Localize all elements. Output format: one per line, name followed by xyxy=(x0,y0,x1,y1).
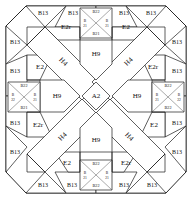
star-west-top-label: B22 xyxy=(21,83,28,88)
house-west-label: H9 xyxy=(53,92,62,100)
par-top-left-label: E2r xyxy=(61,23,72,31)
quilt-block-diagram: B13 B13 B13 B13 E2r E2 B13 B13 B13 B13 B… xyxy=(0,0,192,199)
tri-left-3-label: B13 xyxy=(10,120,20,126)
par-left-lower-label: E2r xyxy=(33,121,44,129)
tri-right-2-label: B13 xyxy=(172,68,182,74)
star-north-left-lower-label: 21 xyxy=(83,24,87,28)
tri-right-3-label: B13 xyxy=(172,120,182,126)
tri-top-2-label: B13 xyxy=(68,10,78,16)
tri-bottom-1-label: B13 xyxy=(38,182,48,188)
tri-top-4-label: B13 xyxy=(146,10,156,16)
star-west-left-lower-label: 22 xyxy=(11,98,15,102)
star-west-bottom-label: B21 xyxy=(21,105,28,110)
tri-bottom-2-label: B13 xyxy=(67,182,77,188)
house-north-label: H9 xyxy=(92,50,101,58)
star-south-left-lower-label: 21 xyxy=(83,176,87,180)
tri-top-1-label: B13 xyxy=(38,10,48,16)
tri-right-4-label: B13 xyxy=(172,149,182,155)
star-south-right-lower-label: 21 xyxy=(105,176,109,180)
tri-left-2-label: B13 xyxy=(10,68,20,74)
center-label: A2 xyxy=(92,92,101,100)
par-left-upper-label: E2 xyxy=(36,63,44,71)
tri-left-4-label: B13 xyxy=(10,149,20,155)
tri-left-1-label: B13 xyxy=(10,39,20,45)
par-top-right-label: E2 xyxy=(122,23,130,31)
star-south-top-label: B22 xyxy=(93,161,100,166)
par-bottom-left-label: E2 xyxy=(63,159,71,167)
star-north-bottom-label: B21 xyxy=(93,31,100,36)
star-west-right-lower-label: 21 xyxy=(33,98,37,102)
tri-bottom-3-label: B13 xyxy=(119,182,129,188)
tri-bottom-4-label: B13 xyxy=(147,182,157,188)
star-east-left-lower-label: 21 xyxy=(155,98,159,102)
tri-top-3-label: B13 xyxy=(119,10,129,16)
par-bottom-right-label: E2r xyxy=(121,159,132,167)
par-right-upper-label: E2r xyxy=(148,63,159,71)
tri-right-1-label: B13 xyxy=(172,39,182,45)
star-south-bottom-label: B22 xyxy=(93,183,100,188)
house-east-label: H9 xyxy=(133,92,142,100)
star-east-top-label: B22 xyxy=(165,83,172,88)
star-east-bottom-label: B22 xyxy=(165,105,172,110)
house-south-label: H9 xyxy=(92,136,101,144)
star-north-top-label: B22 xyxy=(93,9,100,14)
star-north-right-lower-label: 21 xyxy=(105,24,109,28)
star-east-right-lower-label: 22 xyxy=(177,98,181,102)
par-right-lower-label: E2 xyxy=(150,121,158,129)
